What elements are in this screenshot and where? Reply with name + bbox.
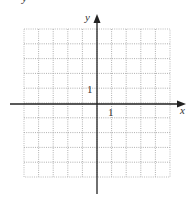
- y-axis-arrow-icon: [94, 14, 101, 23]
- y-axis-label: y: [84, 11, 90, 23]
- y-tick-label-1: 1: [87, 83, 93, 95]
- x-tick-label-1: 1: [108, 106, 114, 118]
- coordinate-plane-svg: y y x 1 1: [0, 0, 196, 200]
- coordinate-plane-figure: y y x 1 1: [0, 0, 196, 200]
- top-fragment-text: y: [21, 0, 27, 4]
- x-axis-label: x: [179, 104, 185, 116]
